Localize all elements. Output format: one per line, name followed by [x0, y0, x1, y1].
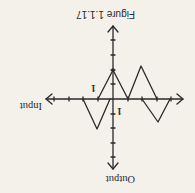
unit-label-x: 1 — [91, 83, 96, 94]
unit-label-y: 1 — [117, 106, 122, 117]
graph-svg: Figure 1.1.17 Input Output 1 1 — [0, 0, 195, 193]
input-axis-label: Input — [20, 101, 42, 112]
figure-caption: Figure 1.1.17 — [76, 9, 135, 20]
segment-upper-right — [128, 66, 157, 99]
segment-lower-right — [142, 99, 170, 122]
output-axis-label: Output — [106, 174, 135, 185]
segment-lower-left — [83, 99, 110, 129]
figure: Figure 1.1.17 Input Output 1 1 — [0, 0, 195, 193]
peak-dot — [111, 68, 115, 72]
